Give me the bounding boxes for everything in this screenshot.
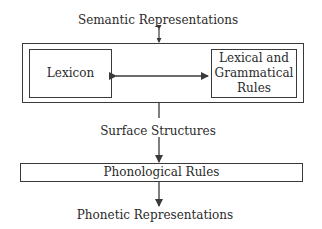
lexicon-box: Lexicon [29, 49, 112, 98]
lexicon-label: Lexicon [47, 66, 94, 81]
lexical-grammatical-rules-box: Lexical and Grammatical Rules [211, 49, 297, 98]
phonological-rules-box: Phonological Rules [20, 163, 303, 182]
phonological-rules-label: Phonological Rules [104, 165, 220, 180]
connector-arrows [0, 0, 322, 229]
rules-label-line3: Rules [237, 81, 271, 96]
surface-structures-label: Surface Structures [100, 124, 216, 138]
rules-label-line2: Grammatical [215, 66, 294, 81]
phonetic-representations-label: Phonetic Representations [77, 208, 233, 222]
rules-label-line1: Lexical and [219, 51, 289, 66]
semantic-representations-label: Semantic Representations [78, 13, 238, 27]
